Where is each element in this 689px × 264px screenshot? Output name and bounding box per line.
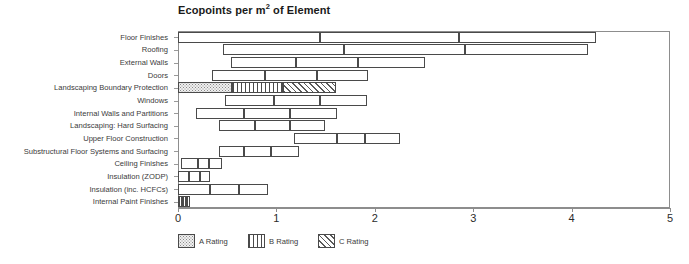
bar-segment-a-rating bbox=[219, 120, 254, 131]
y-axis-label-10: Ceiling Finishes bbox=[114, 159, 168, 168]
y-axis-label-11: Insulation (ZODP) bbox=[107, 172, 168, 181]
bar-row bbox=[178, 44, 670, 55]
bar-segment-b-rating bbox=[189, 171, 200, 182]
chart-title-prefix: Ecopoints per m bbox=[178, 4, 266, 16]
bar-segment-c-rating bbox=[320, 95, 367, 106]
bar-segment-b-rating bbox=[210, 184, 239, 195]
bar-segment-b-rating bbox=[232, 82, 283, 93]
y-axis-label-8: Upper Floor Construction bbox=[83, 134, 168, 143]
bar-segment-a-rating bbox=[178, 171, 189, 182]
bar-segment-c-rating bbox=[459, 32, 596, 43]
bar-segment-c-rating bbox=[186, 196, 190, 207]
y-axis-label-9: Substructural Floor Systems and Surfacin… bbox=[24, 147, 168, 156]
legend-label: A Rating bbox=[199, 237, 228, 246]
bar-segment-a-rating bbox=[181, 158, 198, 169]
bar-segment-b-rating bbox=[198, 158, 210, 169]
x-axis-line bbox=[178, 208, 670, 209]
bar-segment-c-rating bbox=[209, 158, 222, 169]
y-axis-label-7: Landscaping: Hard Surfacing bbox=[70, 121, 168, 130]
bar-segment-c-rating bbox=[465, 44, 588, 55]
bar-segment-c-rating bbox=[290, 120, 324, 131]
ecopoints-chart: Ecopoints per m2 of Element Floor Finish… bbox=[0, 0, 689, 264]
legend-swatch-icon bbox=[178, 234, 195, 248]
bar-row bbox=[178, 158, 670, 169]
y-axis-label-13: Internal Paint Finishes bbox=[93, 197, 168, 206]
bar-segment-c-rating bbox=[283, 82, 336, 93]
bar-segment-a-rating bbox=[178, 82, 232, 93]
x-axis-tick-label-5: 5 bbox=[667, 212, 673, 224]
bar-segment-b-rating bbox=[265, 70, 317, 81]
bar-row bbox=[178, 95, 670, 106]
bar-segment-c-rating bbox=[200, 171, 211, 182]
legend-label: B Rating bbox=[269, 237, 298, 246]
bar-segment-b-rating bbox=[337, 133, 365, 144]
bar-row bbox=[178, 171, 670, 182]
bar-row bbox=[178, 57, 670, 68]
bar-segment-b-rating bbox=[296, 57, 358, 68]
bar-segment-b-rating bbox=[274, 95, 319, 106]
bar-row bbox=[178, 184, 670, 195]
bar-segment-b-rating bbox=[344, 44, 465, 55]
bar-segment-c-rating bbox=[239, 184, 268, 195]
y-axis-label-5: Windows bbox=[137, 96, 168, 105]
y-axis-label-2: External Walls bbox=[120, 58, 168, 67]
chart-title-suffix: of Element bbox=[270, 4, 330, 16]
bar-row bbox=[178, 133, 670, 144]
chart-legend: A RatingB RatingC Rating bbox=[0, 234, 689, 258]
bar-segment-a-rating bbox=[231, 57, 296, 68]
bar-row bbox=[178, 82, 670, 93]
legend-swatch-icon bbox=[318, 234, 335, 248]
bar-series-group bbox=[178, 31, 670, 208]
bar-row bbox=[178, 146, 670, 157]
y-axis-label-3: Doors bbox=[148, 71, 168, 80]
bar-segment-a-rating bbox=[196, 108, 244, 119]
bar-segment-b-rating bbox=[244, 146, 272, 157]
bar-row bbox=[178, 120, 670, 131]
x-axis-tick-label-3: 3 bbox=[470, 212, 476, 224]
bar-segment-a-rating bbox=[225, 95, 274, 106]
bar-row bbox=[178, 32, 670, 43]
bar-segment-b-rating bbox=[244, 108, 290, 119]
bar-row bbox=[178, 70, 670, 81]
y-axis-label-6: Internal Walls and Partitions bbox=[74, 109, 168, 118]
x-axis-tick-label-4: 4 bbox=[569, 212, 575, 224]
y-axis-category-labels: Floor FinishesRoofingExternal WallsDoors… bbox=[0, 31, 174, 208]
chart-title: Ecopoints per m2 of Element bbox=[178, 4, 598, 16]
y-axis-label-0: Floor Finishes bbox=[120, 33, 168, 42]
bar-segment-a-rating bbox=[294, 133, 337, 144]
bar-row bbox=[178, 108, 670, 119]
x-axis-tick-label-1: 1 bbox=[273, 212, 279, 224]
x-axis-tick-label-0: 0 bbox=[175, 212, 181, 224]
bar-segment-c-rating bbox=[358, 57, 425, 68]
bar-segment-c-rating bbox=[271, 146, 299, 157]
y-axis-label-4: Landscaping Boundary Protection bbox=[54, 83, 168, 92]
bar-row bbox=[178, 196, 670, 207]
bar-segment-a-rating bbox=[219, 146, 244, 157]
bar-segment-a-rating bbox=[178, 32, 320, 43]
legend-label: C Rating bbox=[339, 237, 369, 246]
bar-segment-a-rating bbox=[178, 184, 210, 195]
y-axis-label-1: Roofing bbox=[142, 45, 168, 54]
bar-segment-b-rating bbox=[320, 32, 460, 43]
x-axis-tick-label-2: 2 bbox=[372, 212, 378, 224]
bar-segment-a-rating bbox=[212, 70, 264, 81]
bar-segment-a-rating bbox=[223, 44, 344, 55]
bar-segment-c-rating bbox=[365, 133, 400, 144]
bar-segment-b-rating bbox=[255, 120, 290, 131]
bar-segment-c-rating bbox=[317, 70, 368, 81]
y-axis-label-12: Insulation (inc. HCFCs) bbox=[90, 185, 169, 194]
legend-swatch-icon bbox=[248, 234, 265, 248]
bar-segment-c-rating bbox=[290, 108, 337, 119]
